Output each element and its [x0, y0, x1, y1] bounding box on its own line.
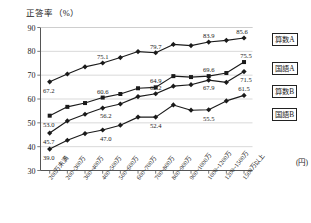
x-axis-tick-labels: 200万未満200~300万300~400万400~500万500~600万60… [0, 0, 311, 223]
legend-item-算数A[interactable]: 算数A [272, 33, 298, 46]
legend-item-算数B[interactable]: 算数B [272, 85, 297, 98]
legend-item-国語A[interactable]: 国語A [272, 62, 298, 75]
legend-item-国語B[interactable]: 国語B [272, 108, 297, 121]
chart-container: 正答率（%） (円) 3040506070809067.275.179.783.… [0, 0, 311, 223]
